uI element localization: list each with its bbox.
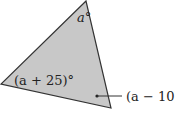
- triangle-diagram: a° (a + 25)° (a − 10)°: [0, 0, 175, 114]
- triangle: [1, 1, 111, 108]
- angle-label-bottom-right: (a − 10)°: [126, 89, 175, 104]
- angle-label-left: (a + 25)°: [14, 73, 74, 88]
- angle-label-top: a°: [77, 10, 91, 25]
